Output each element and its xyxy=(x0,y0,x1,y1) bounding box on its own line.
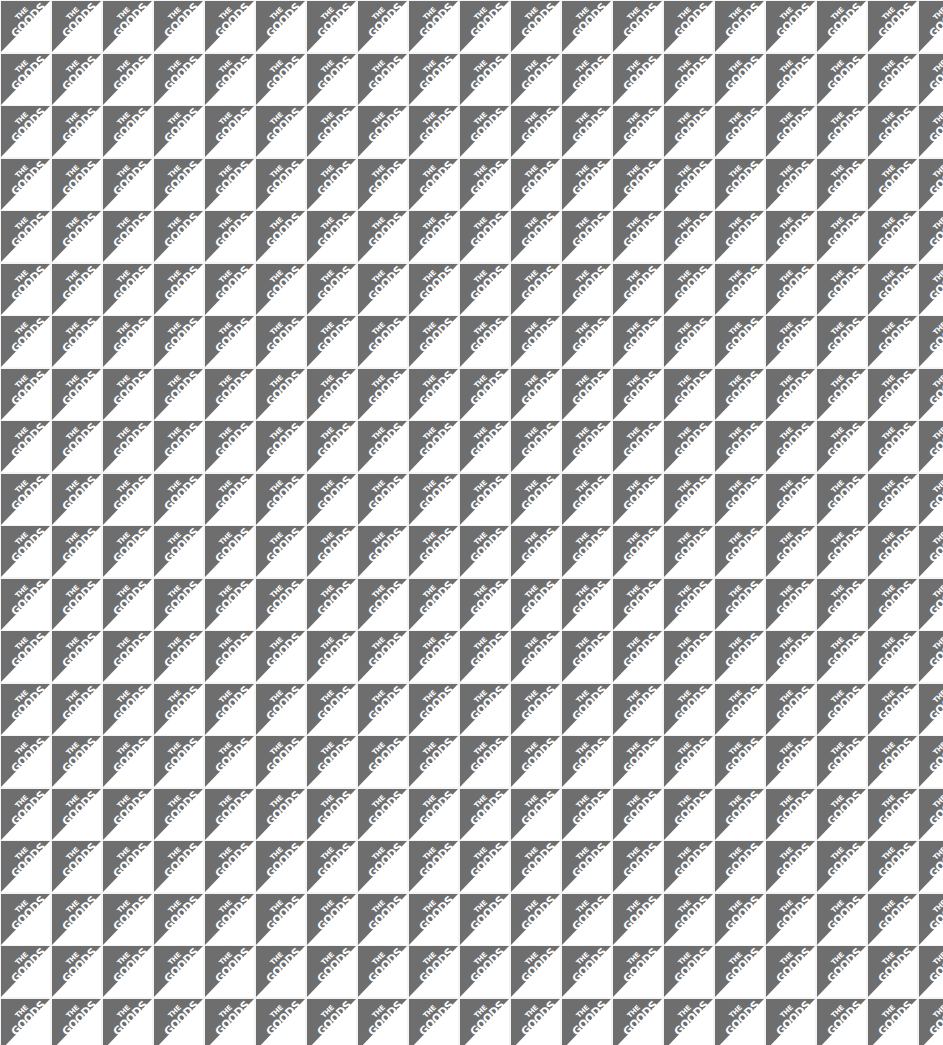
pattern-tile: THE GOODS xyxy=(154,631,203,682)
pattern-tile: THE GOODS xyxy=(256,264,305,315)
pattern-tile: THE GOODS xyxy=(1,1,50,52)
pattern-tile: THE GOODS xyxy=(205,999,254,1045)
pattern-tile: THE GOODS xyxy=(511,159,560,210)
pattern-tile: THE GOODS xyxy=(919,631,943,682)
pattern-tile: THE GOODS xyxy=(715,211,764,262)
pattern-tile: THE GOODS xyxy=(817,1,866,52)
pattern-tile: THE GOODS xyxy=(1,631,50,682)
pattern-tile: THE GOODS xyxy=(919,684,943,735)
pattern-tile: THE GOODS xyxy=(154,946,203,997)
pattern-tile: THE GOODS xyxy=(52,369,101,420)
pattern-tile: THE GOODS xyxy=(562,789,611,840)
pattern-tile: THE GOODS xyxy=(154,579,203,630)
pattern-tile: THE GOODS xyxy=(562,264,611,315)
pattern-tile: THE GOODS xyxy=(868,579,917,630)
pattern-tile: THE GOODS xyxy=(919,159,943,210)
pattern-tile: THE GOODS xyxy=(817,369,866,420)
pattern-tile: THE GOODS xyxy=(868,789,917,840)
pattern-tile: THE GOODS xyxy=(817,894,866,945)
the-goods-tiled-pattern: THE GOODS THE GOODS THE GOODS THE GOODS xyxy=(0,0,943,1045)
pattern-tile: THE GOODS xyxy=(205,894,254,945)
pattern-tile: THE GOODS xyxy=(766,946,815,997)
pattern-tile: THE GOODS xyxy=(817,999,866,1045)
pattern-tile: THE GOODS xyxy=(664,159,713,210)
pattern-tile: THE GOODS xyxy=(613,159,662,210)
pattern-tile: THE GOODS xyxy=(715,369,764,420)
pattern-tile: THE GOODS xyxy=(562,106,611,157)
pattern-tile: THE GOODS xyxy=(103,54,152,105)
pattern-tile: THE GOODS xyxy=(409,264,458,315)
pattern-tile: THE GOODS xyxy=(511,369,560,420)
pattern-tile: THE GOODS xyxy=(103,316,152,367)
pattern-tile: THE GOODS xyxy=(868,841,917,892)
pattern-tile: THE GOODS xyxy=(460,946,509,997)
pattern-tile: THE GOODS xyxy=(154,999,203,1045)
pattern-tile: THE GOODS xyxy=(1,526,50,577)
pattern-tile: THE GOODS xyxy=(919,211,943,262)
pattern-tile: THE GOODS xyxy=(358,894,407,945)
pattern-tile: THE GOODS xyxy=(511,421,560,472)
pattern-tile: THE GOODS xyxy=(154,526,203,577)
pattern-tile: THE GOODS xyxy=(715,736,764,787)
pattern-tile: THE GOODS xyxy=(52,106,101,157)
pattern-tile: THE GOODS xyxy=(613,841,662,892)
pattern-tile: THE GOODS xyxy=(358,159,407,210)
pattern-tile: THE GOODS xyxy=(817,841,866,892)
pattern-tile: THE GOODS xyxy=(817,159,866,210)
pattern-tile: THE GOODS xyxy=(205,421,254,472)
pattern-tile: THE GOODS xyxy=(562,474,611,525)
pattern-tile: THE GOODS xyxy=(919,264,943,315)
pattern-tile: THE GOODS xyxy=(52,631,101,682)
pattern-tile: THE GOODS xyxy=(664,736,713,787)
pattern-tile: THE GOODS xyxy=(715,526,764,577)
pattern-tile: THE GOODS xyxy=(205,159,254,210)
pattern-tile: THE GOODS xyxy=(613,684,662,735)
pattern-tile: THE GOODS xyxy=(919,421,943,472)
pattern-tile: THE GOODS xyxy=(154,106,203,157)
pattern-tile: THE GOODS xyxy=(715,421,764,472)
pattern-tile: THE GOODS xyxy=(664,526,713,577)
pattern-tile: THE GOODS xyxy=(256,684,305,735)
pattern-tile: THE GOODS xyxy=(511,316,560,367)
pattern-tile: THE GOODS xyxy=(715,894,764,945)
pattern-tile: THE GOODS xyxy=(1,736,50,787)
pattern-tile: THE GOODS xyxy=(154,1,203,52)
pattern-tile: THE GOODS xyxy=(103,421,152,472)
pattern-tile: THE GOODS xyxy=(205,54,254,105)
pattern-tile: THE GOODS xyxy=(664,894,713,945)
pattern-tile: THE GOODS xyxy=(817,316,866,367)
pattern-tile: THE GOODS xyxy=(766,999,815,1045)
pattern-tile: THE GOODS xyxy=(460,264,509,315)
pattern-tile: THE GOODS xyxy=(409,789,458,840)
pattern-tile: THE GOODS xyxy=(256,316,305,367)
pattern-tile: THE GOODS xyxy=(205,211,254,262)
pattern-tile: THE GOODS xyxy=(511,999,560,1045)
pattern-tile: THE GOODS xyxy=(460,1,509,52)
pattern-tile: THE GOODS xyxy=(307,736,356,787)
pattern-tile: THE GOODS xyxy=(409,841,458,892)
pattern-tile: THE GOODS xyxy=(52,316,101,367)
pattern-tile: THE GOODS xyxy=(664,841,713,892)
pattern-tile: THE GOODS xyxy=(256,946,305,997)
pattern-tile: THE GOODS xyxy=(613,474,662,525)
pattern-tile: THE GOODS xyxy=(664,999,713,1045)
pattern-tile: THE GOODS xyxy=(715,999,764,1045)
pattern-tile: THE GOODS xyxy=(52,421,101,472)
pattern-tile: THE GOODS xyxy=(562,631,611,682)
pattern-tile: THE GOODS xyxy=(409,54,458,105)
pattern-tile: THE GOODS xyxy=(358,264,407,315)
pattern-tile: THE GOODS xyxy=(154,159,203,210)
pattern-tile: THE GOODS xyxy=(511,526,560,577)
pattern-tile: THE GOODS xyxy=(664,369,713,420)
pattern-tile: THE GOODS xyxy=(205,264,254,315)
pattern-tile: THE GOODS xyxy=(256,631,305,682)
pattern-tile: THE GOODS xyxy=(154,684,203,735)
pattern-tile: THE GOODS xyxy=(511,684,560,735)
pattern-tile: THE GOODS xyxy=(511,264,560,315)
pattern-tile: THE GOODS xyxy=(103,946,152,997)
pattern-tile: THE GOODS xyxy=(511,579,560,630)
pattern-tile: THE GOODS xyxy=(613,579,662,630)
pattern-tile: THE GOODS xyxy=(205,841,254,892)
pattern-tile: THE GOODS xyxy=(409,894,458,945)
pattern-tile: THE GOODS xyxy=(868,894,917,945)
